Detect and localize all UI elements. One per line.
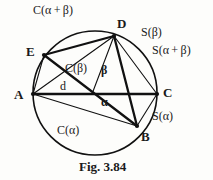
vertex-dot-e — [42, 53, 46, 57]
chord-label-s-alpha-plus-beta: S(α + β) — [152, 44, 191, 56]
vertex-label-e: E — [26, 45, 35, 58]
edge-A-B — [33, 94, 137, 126]
chord-label-c-alpha-plus-beta: C(α + β) — [33, 4, 73, 16]
vertex-dot-a — [31, 92, 35, 96]
vertex-label-b: B — [141, 130, 150, 143]
vertex-dot-d — [112, 34, 116, 38]
chord-label-c-alpha: C(α) — [57, 124, 79, 136]
angle-alpha: α — [101, 96, 108, 108]
chord-label-s-beta: S(β) — [141, 26, 162, 38]
vertex-label-c: C — [163, 86, 172, 99]
vertex-label-d: D — [117, 17, 126, 30]
edge-E-B — [44, 55, 137, 126]
figure-container: ABCDE C(α + β)S(β)S(α + β)S(α)C(β)C(α)d … — [0, 0, 213, 180]
edge-A-E — [33, 55, 44, 94]
vertex-dot-b — [135, 124, 139, 128]
vertex-dot-layer — [31, 34, 159, 128]
angle-beta: β — [101, 64, 107, 76]
chord-label-s-alpha: S(α) — [152, 110, 173, 122]
figure-caption: Fig. 3.84 — [79, 160, 126, 173]
chord-label-d-segment: d — [60, 80, 66, 92]
chord-label-c-beta: C(β) — [65, 62, 87, 74]
geometry-diagram — [0, 0, 213, 180]
vertex-dot-c — [155, 92, 159, 96]
vertex-label-a: A — [14, 88, 23, 101]
